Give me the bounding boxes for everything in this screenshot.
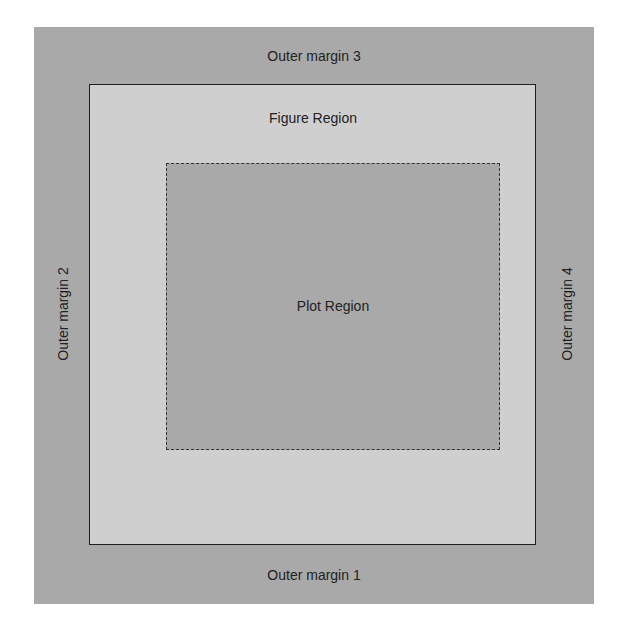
outer-margin-1-label: Outer margin 1 <box>0 567 628 583</box>
figure-region-label: Figure Region <box>21 110 605 126</box>
outer-margin-4-label: Outer margin 4 <box>559 267 575 360</box>
outer-margin-2-label: Outer margin 2 <box>55 267 71 360</box>
outer-margin-3-label: Outer margin 3 <box>0 48 628 64</box>
plot-region-label: Plot Region <box>166 298 500 314</box>
